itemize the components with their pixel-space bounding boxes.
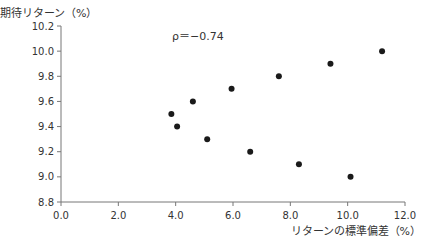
x-tick-label: 10.0 xyxy=(337,210,359,221)
y-tick-label: 9.4 xyxy=(38,121,54,132)
data-point xyxy=(379,48,385,54)
x-tick-label: 12.0 xyxy=(394,210,416,221)
x-tick-label: 0.0 xyxy=(53,210,69,221)
axes: 8.89.09.29.49.69.810.010.20.02.04.06.08.… xyxy=(32,21,416,222)
data-point xyxy=(168,111,174,117)
data-point xyxy=(174,124,180,130)
y-tick-label: 9.0 xyxy=(38,171,54,182)
data-point xyxy=(276,73,282,79)
data-point xyxy=(247,149,253,155)
y-tick-label: 9.8 xyxy=(38,71,54,82)
data-point xyxy=(348,174,354,180)
scatter-plot: 8.89.09.29.49.69.810.010.20.02.04.06.08.… xyxy=(0,0,429,248)
x-tick-label: 6.0 xyxy=(225,210,241,221)
data-points xyxy=(168,48,385,180)
x-tick-label: 8.0 xyxy=(282,210,298,221)
data-point xyxy=(327,61,333,67)
data-point xyxy=(204,136,210,142)
x-tick-label: 4.0 xyxy=(168,210,184,221)
y-tick-label: 8.8 xyxy=(38,197,54,208)
x-tick-label: 2.0 xyxy=(110,210,126,221)
y-tick-label: 10.0 xyxy=(32,46,54,57)
y-tick-label: 10.2 xyxy=(32,21,54,32)
data-point xyxy=(296,161,302,167)
y-tick-label: 9.2 xyxy=(38,146,54,157)
y-tick-label: 9.6 xyxy=(38,96,54,107)
data-point xyxy=(229,86,235,92)
data-point xyxy=(190,98,196,104)
